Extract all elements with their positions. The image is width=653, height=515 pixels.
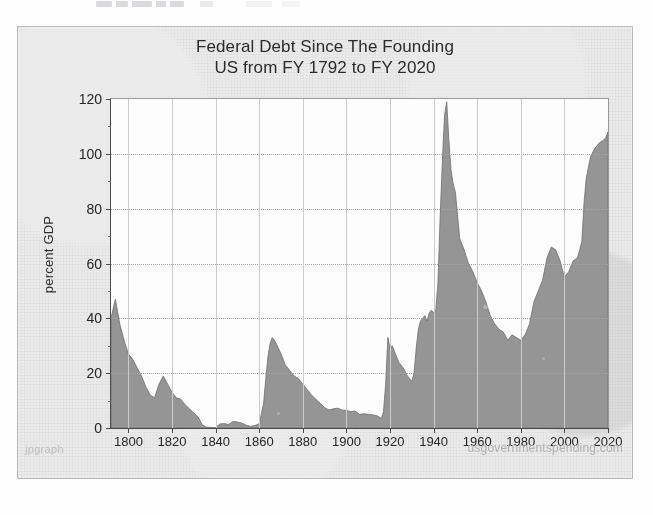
plot-area: 0204060801001201800182018401860188019001…: [110, 98, 609, 429]
gridline-vertical: [564, 99, 565, 428]
gridline-vertical: [390, 99, 391, 428]
gridline-vertical: [434, 99, 435, 428]
y-tick-mark: [106, 264, 111, 265]
jpgraph-watermark: jpgraph: [25, 443, 64, 455]
y-tick-label: 20: [86, 365, 102, 381]
gridline-vertical: [216, 99, 217, 428]
y-tick-mark: [106, 154, 111, 155]
gridline-horizontal: [111, 154, 608, 155]
x-tick-mark: [259, 428, 260, 433]
x-tick-mark: [564, 428, 565, 433]
gridline-vertical: [303, 99, 304, 428]
x-tick-mark: [477, 428, 478, 433]
x-tick-label: 1800: [114, 434, 143, 449]
x-tick-label: 1880: [288, 434, 317, 449]
x-tick-mark: [434, 428, 435, 433]
y-tick-minor: [108, 346, 111, 347]
y-tick-mark: [106, 209, 111, 210]
gridline-vertical: [259, 99, 260, 428]
source-credit: usgovernmentspending.com: [467, 441, 623, 455]
gridline-vertical: [477, 99, 478, 428]
y-tick-label: 100: [79, 146, 102, 162]
x-tick-label: 1860: [245, 434, 274, 449]
scan-artifact-strip: [96, 0, 326, 9]
chart-card: Federal Debt Since The Founding US from …: [17, 26, 633, 479]
y-tick-mark: [106, 373, 111, 374]
gridline-vertical: [346, 99, 347, 428]
x-tick-mark: [128, 428, 129, 433]
x-tick-label: 1900: [332, 434, 361, 449]
x-tick-mark: [172, 428, 173, 433]
y-tick-minor: [108, 181, 111, 182]
gridline-vertical: [128, 99, 129, 428]
y-tick-mark: [106, 99, 111, 100]
y-tick-minor: [108, 236, 111, 237]
y-tick-label: 40: [86, 310, 102, 326]
x-tick-label: 1940: [419, 434, 448, 449]
x-tick-label: 1820: [158, 434, 187, 449]
y-tick-label: 0: [94, 420, 102, 436]
gridline-horizontal: [111, 209, 608, 210]
y-axis-title: percent GDP: [41, 195, 56, 315]
gridline-horizontal: [111, 318, 608, 319]
y-tick-label: 120: [79, 91, 102, 107]
gridline-vertical: [521, 99, 522, 428]
chart-subtitle: US from FY 1792 to FY 2020: [18, 57, 632, 78]
y-tick-minor: [108, 126, 111, 127]
x-tick-mark: [346, 428, 347, 433]
chart-title-block: Federal Debt Since The Founding US from …: [18, 36, 632, 78]
x-tick-label: 1920: [376, 434, 405, 449]
x-tick-label: 1840: [201, 434, 230, 449]
x-tick-mark: [521, 428, 522, 433]
gridline-horizontal: [111, 264, 608, 265]
gridline-horizontal: [111, 373, 608, 374]
x-tick-mark: [608, 428, 609, 433]
x-tick-mark: [303, 428, 304, 433]
x-tick-mark: [216, 428, 217, 433]
y-tick-minor: [108, 401, 111, 402]
gridline-vertical: [172, 99, 173, 428]
y-tick-label: 60: [86, 256, 102, 272]
x-tick-mark: [390, 428, 391, 433]
y-tick-mark: [106, 428, 111, 429]
y-tick-label: 80: [86, 201, 102, 217]
page-title: Federal Debt Since The Founding: [18, 36, 632, 57]
y-tick-mark: [106, 318, 111, 319]
y-tick-minor: [108, 291, 111, 292]
